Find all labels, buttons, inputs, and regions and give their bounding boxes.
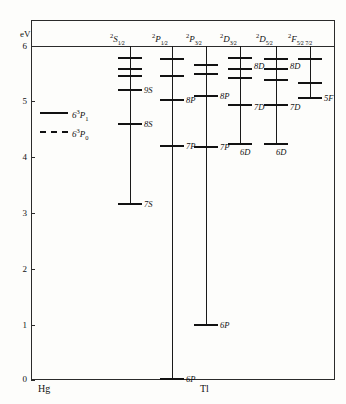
level-bar-9s bbox=[118, 89, 142, 91]
level-bar-8p bbox=[160, 99, 184, 101]
y-tick-label-4: 4 bbox=[11, 153, 27, 162]
level-label-7d-a: 7D bbox=[254, 103, 264, 112]
column-spine-2p12 bbox=[172, 46, 173, 380]
legend-swatch-solid bbox=[40, 112, 68, 114]
level-bar-7p bbox=[160, 145, 184, 147]
level-label-8d-b: 8D bbox=[290, 62, 300, 71]
y-tick-4 bbox=[31, 157, 35, 158]
level-bar bbox=[298, 58, 322, 60]
y-tick-label-5: 5 bbox=[11, 97, 27, 106]
level-label-7s: 7S bbox=[144, 200, 153, 209]
plot-frame bbox=[31, 20, 335, 380]
level-bar-5f bbox=[298, 97, 322, 99]
column-spine-2d52 bbox=[276, 46, 277, 145]
level-bar bbox=[298, 82, 322, 84]
term-j: 3⁄2 bbox=[195, 40, 202, 46]
column-spine-2d32 bbox=[240, 46, 241, 145]
level-bar-8d bbox=[264, 68, 288, 70]
term-header-2f: 2F5⁄2 7⁄2 bbox=[288, 31, 312, 48]
level-bar bbox=[228, 57, 252, 59]
level-bar-7d bbox=[228, 104, 252, 106]
level-bar bbox=[160, 58, 184, 60]
term-j: 5⁄2 bbox=[266, 40, 273, 46]
level-bar bbox=[118, 68, 142, 70]
level-label-8d-a: 8D bbox=[254, 62, 264, 71]
level-label-8p-b: 8P bbox=[220, 92, 229, 101]
level-bar-7d bbox=[264, 104, 288, 106]
level-label-7d-b: 7D bbox=[290, 103, 300, 112]
legend-j: 0 bbox=[85, 134, 88, 141]
y-tick-label-3: 3 bbox=[11, 209, 27, 218]
level-bar bbox=[228, 77, 252, 79]
energy-level-diagram: eV 6 5 4 3 2 1 0 2S1⁄2 2P1⁄2 2P3⁄2 2D3⁄2… bbox=[0, 0, 346, 404]
term-header-2p32: 2P3⁄2 bbox=[186, 31, 202, 48]
level-label-6p-b: 6P bbox=[220, 321, 229, 330]
term-header-2p12: 2P1⁄2 bbox=[152, 31, 168, 48]
level-label-6d-a: 6D bbox=[240, 148, 250, 157]
column-spine-2f bbox=[310, 46, 311, 98]
level-bar bbox=[118, 75, 142, 77]
level-bar-8d bbox=[228, 68, 252, 70]
y-tick-label-2: 2 bbox=[11, 265, 27, 274]
element-caption-tl: Tl bbox=[200, 384, 209, 394]
level-bar bbox=[160, 75, 184, 77]
axis-unit-label: eV bbox=[20, 30, 31, 39]
level-label-9s: 9S bbox=[144, 86, 153, 95]
term-j: 1⁄2 bbox=[118, 40, 125, 46]
y-tick-5 bbox=[31, 101, 35, 102]
term-header-2d52: 2D5⁄2 bbox=[256, 31, 273, 48]
level-bar-6d bbox=[264, 143, 288, 145]
legend-label-6p0: 63P0 bbox=[72, 126, 89, 142]
level-bar-6p bbox=[194, 324, 218, 326]
column-spine-2p32 bbox=[206, 46, 207, 325]
y-tick-label-6: 6 bbox=[11, 42, 27, 51]
level-bar bbox=[194, 64, 218, 66]
level-bar-7s bbox=[118, 203, 142, 205]
y-tick-0 bbox=[31, 380, 35, 381]
level-bar bbox=[264, 79, 288, 81]
level-bar bbox=[194, 73, 218, 75]
element-caption-hg: Hg bbox=[38, 384, 50, 394]
term-j: 3⁄2 bbox=[230, 40, 237, 46]
level-bar-6p-ground bbox=[160, 378, 184, 380]
y-tick-1 bbox=[31, 325, 35, 326]
level-label-8s: 8S bbox=[144, 120, 153, 129]
level-label-6p-a: 6P bbox=[186, 375, 195, 384]
legend-label-6p1: 63P1 bbox=[72, 107, 89, 123]
legend-j: 1 bbox=[85, 115, 88, 122]
level-label-8p-a: 8P bbox=[186, 96, 195, 105]
level-bar bbox=[264, 58, 288, 60]
level-bar-8s bbox=[118, 123, 142, 125]
y-tick-3 bbox=[31, 213, 35, 214]
level-bar-8p bbox=[194, 95, 218, 97]
legend-swatch-dashed bbox=[40, 131, 68, 133]
level-bar-6d bbox=[228, 143, 252, 145]
level-bar bbox=[118, 57, 142, 59]
term-header-2d32: 2D3⁄2 bbox=[220, 31, 237, 48]
level-bar-7p bbox=[194, 146, 218, 148]
level-label-6d-b: 6D bbox=[276, 148, 286, 157]
term-j: 1⁄2 bbox=[161, 40, 168, 46]
y-tick-2 bbox=[31, 269, 35, 270]
y-tick-label-0: 0 bbox=[11, 375, 27, 384]
y-tick-label-1: 1 bbox=[11, 321, 27, 330]
term-j: 5⁄2 7⁄2 bbox=[297, 40, 313, 46]
level-label-5f: 5F bbox=[324, 94, 333, 103]
term-header-2s12: 2S1⁄2 bbox=[110, 31, 125, 48]
